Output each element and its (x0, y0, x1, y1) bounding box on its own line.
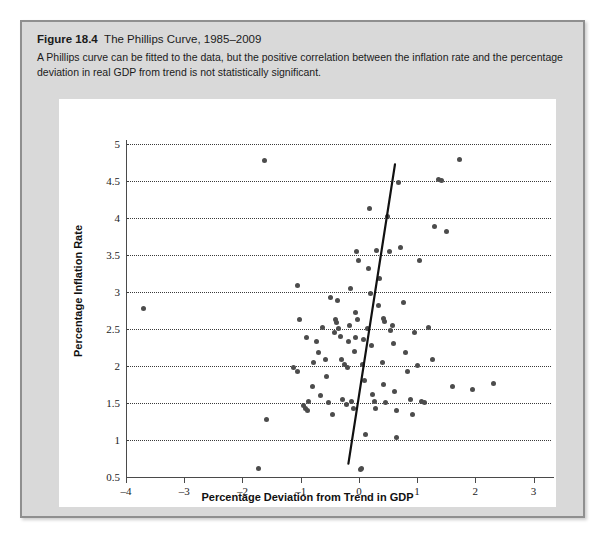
y-tick-label: 3.5 (106, 249, 120, 261)
plot-area: 0.511.522.533.544.55 –4–3–2–10123 (126, 140, 551, 477)
fitted-curve-line (126, 140, 551, 477)
x-tick-mark (534, 477, 535, 483)
x-axis-title: Percentage Deviation from Trend in GDP (59, 491, 556, 503)
y-tick-label: 1.5 (106, 397, 120, 409)
x-tick-mark (301, 477, 302, 483)
x-axis-line (126, 477, 554, 478)
y-axis-title: Percentage Inflation Rate (72, 121, 84, 461)
figure-box: Figure 18.4 The Phillips Curve, 1985–200… (20, 20, 585, 518)
y-tick-label: 4 (115, 212, 121, 224)
x-tick-mark (475, 477, 476, 483)
x-tick-mark (184, 477, 185, 483)
x-tick-mark (242, 477, 243, 483)
y-tick-label: 3 (115, 286, 121, 298)
chart-panel: 0.511.522.533.544.55 –4–3–2–10123 Percen… (59, 99, 556, 507)
y-tick-label: 2 (115, 360, 121, 372)
x-tick-mark (417, 477, 418, 483)
x-tick-mark (126, 477, 127, 483)
figure-description: A Phillips curve can be fitted to the da… (37, 50, 569, 79)
y-tick-label: 0.5 (106, 471, 120, 483)
y-tick-label: 5 (115, 138, 121, 150)
figure-caption-block: Figure 18.4 The Phillips Curve, 1985–200… (37, 31, 569, 79)
x-tick-mark (359, 477, 360, 483)
y-tick-label: 2.5 (106, 323, 120, 335)
figure-name: The Phillips Curve, 1985–2009 (104, 33, 261, 45)
figure-number: Figure 18.4 (37, 33, 98, 45)
y-tick-label: 4.5 (106, 175, 120, 187)
y-tick-label: 1 (115, 434, 121, 446)
figure-title: Figure 18.4 The Phillips Curve, 1985–200… (37, 31, 569, 47)
